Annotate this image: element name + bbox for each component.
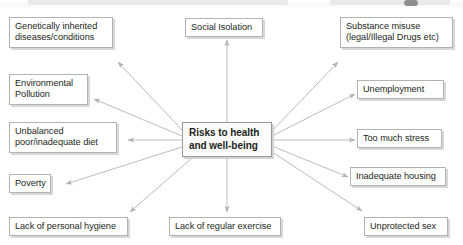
node-unbalanced-diet[interactable]: Unbalanced poor/inadequate diet	[9, 122, 117, 153]
connector-to-lack-of-personal-hygiene	[130, 158, 192, 212]
connector-to-unprotected-sex	[272, 152, 362, 211]
node-too-much-stress[interactable]: Too much stress	[357, 129, 442, 148]
connector-to-unemployment	[272, 94, 355, 136]
node-center-risks-to-health[interactable]: Risks to health and well-being	[182, 122, 272, 157]
node-inadequate-housing[interactable]: Inadequate housing	[350, 167, 446, 186]
connector-to-inadequate-housing	[272, 146, 348, 177]
node-substance-misuse[interactable]: Substance misuse (legal/Illegal Drugs et…	[340, 17, 453, 48]
node-unprotected-sex[interactable]: Unprotected sex	[364, 217, 448, 236]
node-environmental-pollution[interactable]: Environmental Pollution	[9, 74, 88, 105]
connector-to-genetically-inherited-diseases	[118, 62, 182, 130]
node-unemployment[interactable]: Unemployment	[357, 80, 444, 99]
diagram-canvas: Genetically inherited diseases/condition…	[0, 0, 463, 245]
node-social-isolation[interactable]: Social Isolation	[185, 18, 263, 37]
node-poverty[interactable]: Poverty	[9, 174, 51, 193]
connector-to-substance-misuse	[272, 62, 338, 131]
node-lack-of-regular-exercise[interactable]: Lack of regular exercise	[169, 217, 281, 236]
node-genetically-inherited-diseases[interactable]: Genetically inherited diseases/condition…	[9, 17, 113, 48]
node-lack-of-personal-hygiene[interactable]: Lack of personal hygiene	[9, 217, 128, 236]
